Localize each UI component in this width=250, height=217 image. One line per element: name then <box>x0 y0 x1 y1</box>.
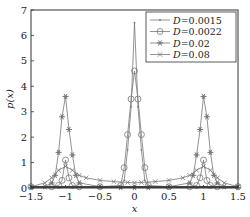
x-tick-label: −0.5 <box>88 191 112 202</box>
svg-text:D=0.08: D=0.08 <box>172 49 210 60</box>
y-tick-label: 6 <box>21 30 27 41</box>
y-axis: 01234567 <box>21 5 34 194</box>
y-tick-label: 1 <box>21 157 27 168</box>
chart-canvas: −1.5−1−0.500.511.5 01234567 x p(x) D=0.0… <box>0 0 250 217</box>
x-tick-label: 1.5 <box>230 191 246 202</box>
y-tick-label: 3 <box>21 106 27 117</box>
x-tick-label: 1 <box>200 191 206 202</box>
y-tick-label: 2 <box>21 132 27 143</box>
legend: D=0.0015D=0.0022D=0.02D=0.08 <box>146 12 236 62</box>
svg-text:D=0.02: D=0.02 <box>172 38 210 49</box>
y-tick-label: 5 <box>21 55 27 66</box>
x-tick-label: −1 <box>58 191 73 202</box>
svg-text:D=0.0015: D=0.0015 <box>172 15 222 26</box>
x-tick-label: 0 <box>131 191 137 202</box>
y-tick-label: 7 <box>21 5 27 16</box>
y-tick-label: 4 <box>21 81 27 92</box>
svg-text:D=0.0022: D=0.0022 <box>172 26 222 37</box>
x-tick-label: 0.5 <box>161 191 177 202</box>
series-d-0-02 <box>28 94 241 190</box>
y-tick-label: 0 <box>21 183 27 194</box>
y-axis-label: p(x) <box>4 89 15 109</box>
x-axis-label: x <box>132 203 138 214</box>
